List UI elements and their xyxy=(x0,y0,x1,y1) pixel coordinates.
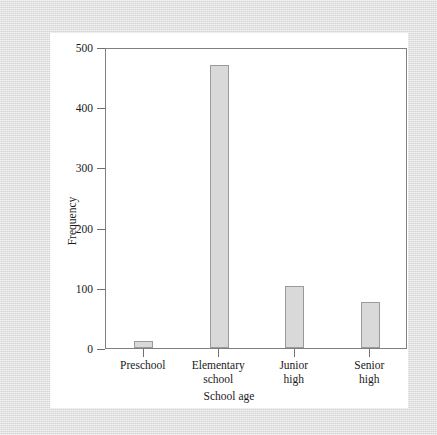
y-axis-tick-label: 100 xyxy=(76,283,93,295)
y-axis-tick xyxy=(97,48,105,49)
bar xyxy=(134,341,153,348)
x-axis-tick-label-line: Senior xyxy=(354,359,384,373)
y-axis-tick xyxy=(97,289,105,290)
y-axis-tick-label: 300 xyxy=(76,162,93,174)
x-axis-tick-label: Seniorhigh xyxy=(354,359,384,386)
x-axis-tick-label-line: high xyxy=(279,373,308,387)
figure-card: 0100200300400500 Frequency School age Pr… xyxy=(50,33,408,408)
y-axis-title: Frequency xyxy=(66,161,78,281)
y-axis-tick xyxy=(97,229,105,230)
x-axis-tick-label-line: Preschool xyxy=(120,359,165,373)
x-axis-tick-label-line: high xyxy=(354,373,384,387)
y-axis-tick xyxy=(97,168,105,169)
y-axis-tick xyxy=(97,349,105,350)
x-axis-tick-label-line: Junior xyxy=(279,359,308,373)
x-axis-tick-label-line: school xyxy=(192,373,245,387)
bar xyxy=(361,302,380,348)
x-axis-tick xyxy=(218,349,219,357)
x-axis-tick-label-line: Elementary xyxy=(192,359,245,373)
bar-chart-figure: 0100200300400500 Frequency School age Pr… xyxy=(50,33,408,408)
bar xyxy=(210,65,229,348)
x-axis-tick xyxy=(294,349,295,357)
x-axis-tick xyxy=(369,349,370,357)
y-axis-tick xyxy=(97,108,105,109)
y-axis-tick-label: 500 xyxy=(76,42,93,54)
y-axis-tick-label: 400 xyxy=(76,102,93,114)
x-axis-tick-label: Juniorhigh xyxy=(279,359,308,386)
x-axis-tick-label: Elementaryschool xyxy=(192,359,245,386)
bar xyxy=(285,286,304,348)
bars-layer xyxy=(106,49,406,348)
plot-area-frame xyxy=(105,48,407,349)
x-axis-tick-label: Preschool xyxy=(120,359,165,373)
y-axis-tick-label: 0 xyxy=(87,343,93,355)
x-axis-tick-labels: PreschoolElementaryschoolJuniorhighSenio… xyxy=(50,359,408,401)
x-axis-tick xyxy=(143,349,144,357)
y-axis-tick-label: 200 xyxy=(76,223,93,235)
